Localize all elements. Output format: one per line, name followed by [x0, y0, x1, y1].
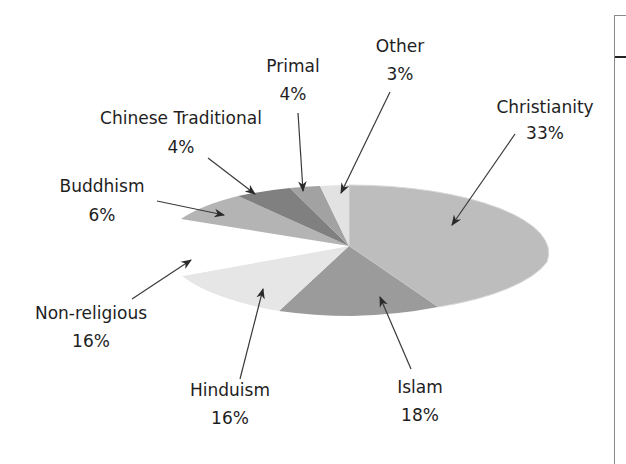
arrow-nonreligious: [132, 260, 191, 299]
label-christianity-name: Christianity: [496, 97, 593, 117]
arrow-chinese: [208, 158, 255, 194]
label-buddhism-name: Buddhism: [60, 176, 145, 196]
label-chinese-name: Chinese Traditional: [100, 108, 262, 128]
adjacent-panel-border: [614, 15, 626, 464]
label-buddhism-pct: 6%: [89, 205, 116, 225]
adjacent-panel-rule: [615, 56, 626, 58]
arrow-other: [341, 92, 390, 193]
label-islam-pct: 18%: [401, 405, 439, 425]
pie-slices: [180, 185, 549, 316]
label-chinese-pct: 4%: [168, 137, 195, 157]
label-primal-name: Primal: [266, 56, 319, 76]
label-hinduism-name: Hinduism: [190, 380, 270, 400]
label-islam-name: Islam: [397, 377, 443, 397]
label-christianity-pct: 33%: [526, 123, 564, 143]
label-hinduism-pct: 16%: [211, 408, 249, 428]
arrow-primal: [298, 113, 303, 191]
label-other-name: Other: [376, 36, 424, 56]
label-nonreligious-pct: 16%: [72, 331, 110, 351]
pie-chart: Christianity 33% Other 3% Primal 4% Chin…: [0, 0, 626, 464]
label-other-pct: 3%: [387, 64, 414, 84]
label-nonreligious-name: Non-religious: [35, 303, 147, 323]
label-primal-pct: 4%: [280, 84, 307, 104]
